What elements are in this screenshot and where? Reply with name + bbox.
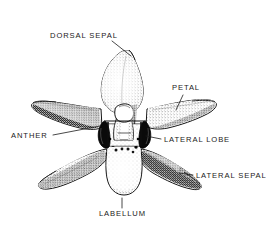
left-lateral-sepal-shape — [34, 144, 114, 194]
right-petal-shape — [140, 95, 222, 134]
orchid-diagram: DORSAL SEPAL PETAL ANTHER LATERAL LOBE L… — [0, 0, 276, 230]
label-lateral-lobe: LATERAL LOBE — [164, 135, 230, 144]
label-dorsal-sepal: DORSAL SEPAL — [50, 31, 118, 40]
left-petal-shape — [28, 96, 108, 134]
right-lateral-sepal-shape — [132, 144, 206, 194]
label-petal: PETAL — [172, 83, 200, 92]
figure-canvas: DORSAL SEPAL PETAL ANTHER LATERAL LOBE L… — [0, 0, 276, 230]
label-anther: ANTHER — [11, 131, 48, 140]
label-lateral-sepal: LATERAL SEPAL — [196, 171, 267, 180]
label-labellum: LABELLUM — [99, 209, 146, 218]
anther-cap-shape — [115, 104, 137, 122]
